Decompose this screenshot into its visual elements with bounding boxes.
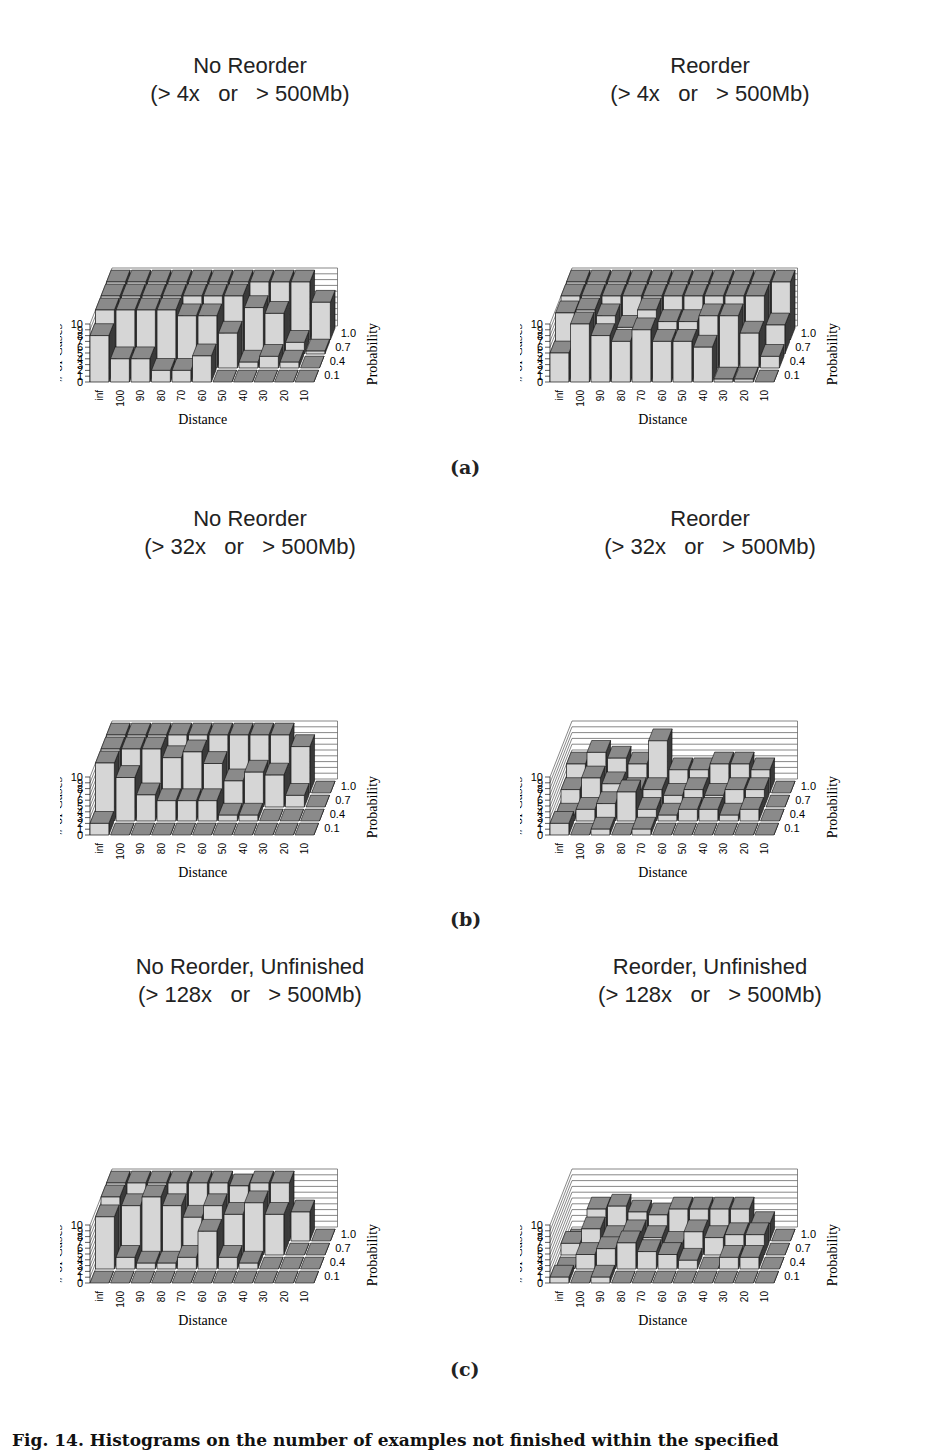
x-tick: 40 (238, 1291, 249, 1303)
bar (280, 809, 304, 821)
panel-label-a: (a) (450, 456, 480, 478)
bar (306, 1243, 330, 1255)
x-tick: 80 (616, 843, 627, 855)
bar (260, 345, 284, 369)
bar (178, 1246, 202, 1270)
bar (280, 350, 304, 368)
bar (291, 1200, 315, 1241)
bar (301, 809, 325, 821)
panel-label-c: (c) (450, 1358, 480, 1380)
bar (234, 823, 258, 835)
x-axis-label: Distance (178, 1313, 227, 1328)
bar (198, 1219, 222, 1269)
bar (131, 1271, 155, 1283)
z-tick: 0.4 (330, 808, 345, 820)
bar (193, 1271, 217, 1283)
x-tick: 90 (135, 1291, 146, 1303)
z-tick: 0.7 (335, 1242, 350, 1254)
bar (694, 1271, 718, 1283)
bar (720, 304, 744, 368)
z-tick: 0.7 (335, 341, 350, 353)
bar (714, 823, 738, 835)
bar (658, 1243, 682, 1269)
z-tick: 0.4 (790, 355, 805, 367)
x-tick: 80 (156, 843, 167, 855)
bar (632, 1271, 656, 1283)
bar (550, 812, 574, 836)
bar (740, 321, 764, 368)
chart-a-right: Reorder (> 4x or > 500Mb) 012345678910in… (520, 52, 900, 452)
bar (312, 290, 336, 340)
x-tick: 30 (258, 390, 269, 402)
x-tick: 30 (718, 1291, 729, 1303)
bar (90, 1271, 114, 1283)
bar (239, 350, 263, 368)
x-tick: 10 (299, 390, 310, 402)
z-tick: 0.4 (790, 808, 805, 820)
bar (571, 823, 595, 835)
x-tick: 90 (595, 1291, 606, 1303)
z-tick: 0.1 (324, 822, 339, 834)
x-tick: 90 (135, 843, 146, 855)
bar (254, 1271, 278, 1283)
bar (755, 370, 779, 382)
x-tick: inf (94, 390, 105, 401)
bar (219, 803, 243, 821)
bar (295, 370, 319, 382)
bar (761, 345, 785, 369)
x-tick: 30 (718, 390, 729, 402)
bar (142, 1185, 166, 1255)
x-tick: 40 (698, 843, 709, 855)
chart-c-left: No Reorder, Unfinished (> 128x or > 500M… (60, 953, 440, 1353)
bar (198, 789, 222, 821)
x-tick: 50 (217, 843, 228, 855)
bar (550, 1265, 574, 1283)
x-tick: 100 (115, 1291, 126, 1308)
x-tick: 50 (217, 1291, 228, 1303)
x-tick: 90 (595, 390, 606, 402)
bar3d-plot: 012345678910inf1009080706050403020100.10… (520, 953, 900, 1353)
bar (653, 330, 677, 383)
bar (735, 823, 759, 835)
bar (234, 1271, 258, 1283)
bar (312, 1229, 336, 1241)
bar (137, 1251, 161, 1269)
z-axis-label: Probability (825, 1224, 840, 1286)
bar (653, 823, 677, 835)
z-tick: 0.1 (784, 822, 799, 834)
bar (286, 784, 310, 808)
x-tick: inf (554, 390, 565, 401)
bar (213, 370, 237, 382)
x-axis-label: Distance (638, 865, 687, 880)
y-tick: 10 (71, 1219, 83, 1231)
bar (772, 781, 796, 793)
x-tick: 10 (299, 1291, 310, 1303)
bar (239, 1251, 263, 1269)
bar (740, 798, 764, 822)
bar (172, 359, 196, 383)
bar (131, 823, 155, 835)
x-tick: 70 (636, 390, 647, 402)
bar (301, 356, 325, 368)
bar (234, 370, 258, 382)
x-tick: 100 (115, 390, 126, 407)
bar (254, 370, 278, 382)
bar (306, 795, 330, 807)
y-axis-label: # of Cases (520, 324, 525, 382)
bar (720, 803, 744, 821)
x-tick: 10 (759, 843, 770, 855)
bar (755, 823, 779, 835)
bar (617, 780, 641, 821)
bar (152, 1271, 176, 1283)
bar (116, 1246, 140, 1270)
z-axis-label: Probability (365, 323, 380, 385)
bar (111, 347, 135, 382)
bar3d-plot: 012345678910inf1009080706050403020100.10… (520, 505, 900, 905)
bar (571, 312, 595, 382)
chart-c-right: Reorder, Unfinished (> 128x or > 500Mb) … (520, 953, 900, 1353)
bar (761, 1257, 785, 1269)
z-tick: 1.0 (341, 1228, 356, 1240)
z-tick: 0.7 (795, 794, 810, 806)
bar (239, 803, 263, 821)
bar (213, 1271, 237, 1283)
